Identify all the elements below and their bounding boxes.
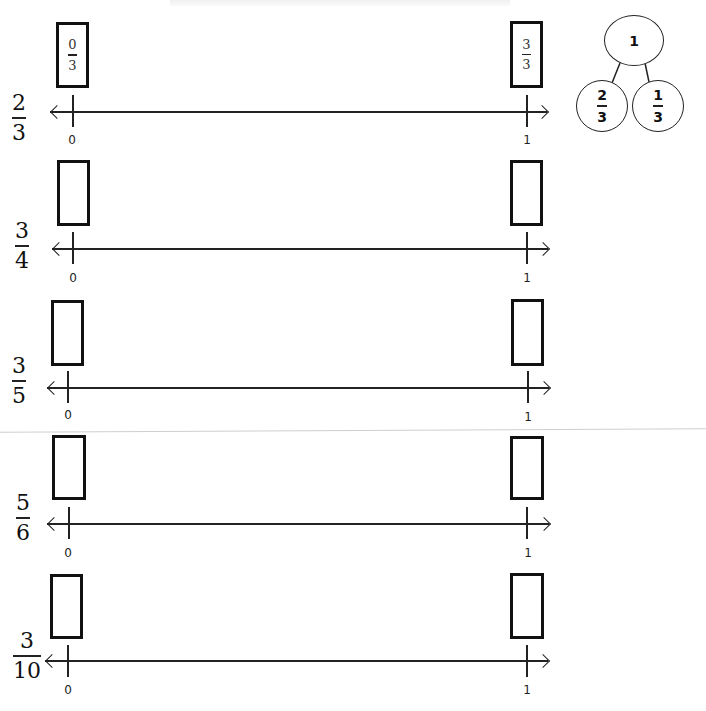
denominator: 5	[12, 385, 26, 407]
tick-end	[526, 232, 528, 264]
tick-end	[527, 371, 529, 403]
denominator: 3	[653, 110, 663, 124]
fraction-bar	[15, 245, 29, 247]
tick-label-start: 0	[58, 408, 78, 422]
arrow-right-icon	[537, 517, 551, 531]
left-answer-box[interactable]	[50, 574, 83, 639]
right-answer-box[interactable]	[510, 160, 543, 226]
tick-start	[67, 371, 69, 403]
arrow-left-icon	[47, 381, 61, 395]
tick-end	[526, 507, 528, 539]
tick-label-start: 0	[63, 271, 83, 285]
right-answer-box[interactable]	[510, 573, 544, 639]
denominator: 10	[13, 660, 41, 682]
row-fraction-label: 3 5	[12, 355, 26, 407]
denominator: 3	[597, 110, 607, 124]
row-fraction-label: 5 6	[16, 492, 30, 544]
arrow-left-icon	[47, 517, 61, 531]
arrow-right-icon	[537, 381, 551, 395]
fraction-bar	[653, 105, 663, 107]
bond-part-left-circle: 2 3	[576, 80, 628, 132]
tick-label-end: 1	[518, 410, 538, 424]
arrow-right-icon	[536, 654, 550, 668]
tick-label-end: 1	[517, 683, 537, 697]
fraction-bar	[12, 380, 26, 382]
left-answer-box[interactable]	[51, 300, 84, 366]
number-line-axis	[45, 660, 548, 662]
left-answer-box[interactable]	[52, 435, 86, 500]
number-line-axis	[47, 523, 549, 525]
bond-whole: 1	[629, 33, 639, 49]
row-fraction-label: 3 4	[15, 220, 29, 272]
tick-start	[68, 507, 70, 539]
arrow-left-icon	[45, 654, 59, 668]
numerator: 2	[597, 88, 607, 102]
right-answer-box[interactable]	[510, 436, 544, 500]
tick-label-start: 0	[58, 683, 78, 697]
denominator: 4	[15, 250, 29, 272]
fraction-bar	[13, 655, 41, 657]
row-fraction-label: 3 10	[13, 630, 41, 682]
number-line-axis	[52, 248, 548, 250]
numerator: 5	[16, 492, 30, 514]
tick-label-start: 0	[58, 546, 78, 560]
right-answer-box[interactable]	[511, 299, 544, 366]
tick-label-end: 1	[517, 271, 537, 285]
arrow-right-icon	[536, 242, 550, 256]
bond-whole-circle: 1	[604, 15, 664, 66]
fraction: 2 3	[597, 88, 607, 124]
tick-start	[67, 645, 69, 677]
numerator: 1	[653, 88, 663, 102]
denominator: 6	[16, 522, 30, 544]
fraction-bar	[597, 105, 607, 107]
bond-part-right-circle: 1 3	[632, 80, 684, 132]
tick-end	[526, 645, 528, 677]
fraction-bar	[16, 517, 30, 519]
scan-line	[0, 428, 706, 433]
number-line-axis	[47, 387, 549, 389]
tick-label-end: 1	[518, 546, 538, 560]
numerator: 3	[15, 220, 29, 242]
arrow-left-icon	[52, 242, 66, 256]
numerator: 3	[12, 355, 26, 377]
left-answer-box[interactable]	[57, 160, 90, 226]
numerator: 3	[20, 630, 34, 652]
fraction: 1 3	[653, 88, 663, 124]
tick-start	[72, 232, 74, 264]
